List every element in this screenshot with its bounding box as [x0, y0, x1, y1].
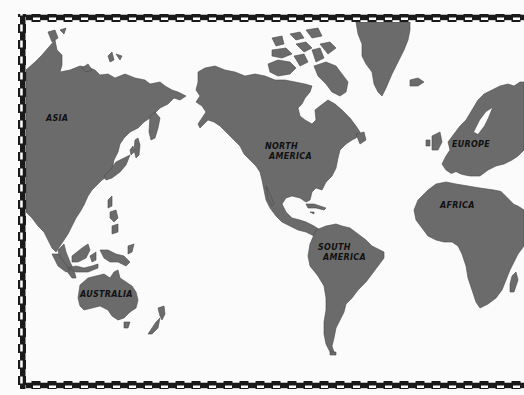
label-europe: EUROPE: [452, 140, 490, 149]
label-north-america-line2: AMERICA: [269, 152, 312, 161]
border-bottom: [18, 381, 524, 389]
label-australia: AUSTRALIA: [80, 290, 133, 299]
world-map: ASIA NORTH AMERICA SOUTH AMERICA EUROPE …: [0, 0, 524, 395]
label-north-america-line1: NORTH: [265, 142, 298, 151]
border-left: [18, 14, 26, 389]
label-south-america-line2: AMERICA: [323, 253, 366, 262]
map-canvas: [0, 0, 524, 395]
border-top: [18, 14, 524, 22]
label-africa: AFRICA: [440, 201, 475, 210]
label-asia: ASIA: [46, 114, 68, 123]
label-south-america-line1: SOUTH: [318, 243, 351, 252]
